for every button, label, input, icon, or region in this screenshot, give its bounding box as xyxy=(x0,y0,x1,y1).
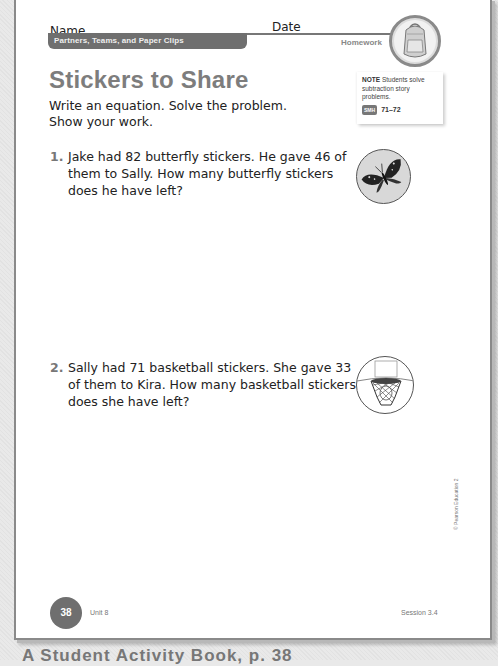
problem-text: Sally had 71 basketball stickers. She ga… xyxy=(68,359,365,410)
problem-text: Jake had 82 butterfly stickers. He gave … xyxy=(68,148,365,199)
figure-caption: A Student Activity Book, p. 38 xyxy=(22,646,293,666)
page-title: Stickers to Share xyxy=(49,66,249,94)
instructions-line-2: Show your work. xyxy=(49,114,287,130)
basketball-hoop-icon xyxy=(356,356,414,414)
problem-1: 1. Jake had 82 butterfly stickers. He ga… xyxy=(50,148,365,199)
teacher-note: NOTE Students solve subtraction story pr… xyxy=(357,72,443,124)
note-heading: NOTE xyxy=(362,76,380,83)
smh-badge: SMH xyxy=(362,105,377,116)
problem-number: 1. xyxy=(50,148,63,165)
problem-2: 2. Sally had 71 basketball stickers. She… xyxy=(50,359,365,410)
unit-title-tab: Partners, Teams, and Paper Clips xyxy=(48,33,247,49)
smh-pages: 71–72 xyxy=(381,106,400,115)
worksheet-page: Name Date Partners, Teams, and Paper Cli… xyxy=(14,0,492,640)
copyright-notice: © Pearson Education 2 xyxy=(453,479,459,531)
homework-label: Homework xyxy=(341,38,382,47)
backpack-icon xyxy=(389,15,441,67)
unit-label: Unit 8 xyxy=(90,609,108,616)
page-number-badge: 38 xyxy=(50,597,82,629)
smh-reference: SMH 71–72 xyxy=(362,105,438,116)
instructions-line-1: Write an equation. Solve the problem. xyxy=(49,98,287,114)
date-label: Date xyxy=(272,20,301,34)
instructions: Write an equation. Solve the problem. Sh… xyxy=(49,98,287,130)
problem-number: 2. xyxy=(50,359,63,376)
butterfly-icon xyxy=(356,149,411,204)
session-label: Session 3.4 xyxy=(401,609,438,616)
